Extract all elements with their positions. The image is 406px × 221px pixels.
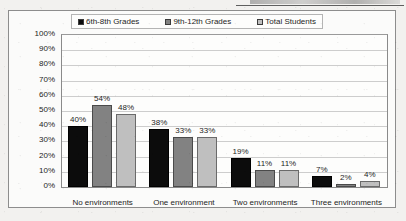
x-category-label: One environment [143,199,224,207]
bar-value-label: 7% [309,166,335,174]
bar-value-label: 38% [146,119,172,127]
y-tick-label: 60% [39,91,55,99]
bar-1-2 [197,137,217,187]
bar-3-1 [336,184,356,187]
x-category-label: Two environments [225,199,306,207]
legend-swatch-icon [257,19,263,25]
y-tick-label: 40% [39,121,55,129]
y-axis: 100%90%80%70%60%50%40%30%20%10%0% [17,27,59,195]
bar-value-label: 33% [170,127,196,135]
chart-legend: 6th-8th Grades9th-12th GradesTotal Stude… [71,14,323,29]
bar-3-2 [360,181,380,187]
bar-2-2 [279,170,299,187]
page-header-artifact [250,0,400,4]
y-tick-label: 90% [39,45,55,53]
x-axis: No environmentsOne environmentTwo enviro… [62,197,387,213]
legend-item-2: Total Students [257,18,316,26]
x-category-label: Three environments [306,199,387,207]
bar-0-0 [68,126,88,187]
bar-group: 38%33%33% [149,35,224,187]
y-tick-label: 0% [43,182,55,190]
y-tick-label: 20% [39,152,55,160]
bar-0-2 [116,114,136,187]
legend-swatch-icon [165,19,171,25]
bar-2-0 [231,158,251,187]
bar-value-label: 19% [228,148,254,156]
x-category-label: No environments [62,199,143,207]
bar-2-1 [255,170,275,187]
legend-item-1: 9th-12th Grades [165,18,231,26]
bar-value-label: 48% [113,104,139,112]
legend-label: 9th-12th Grades [173,18,231,26]
bar-value-label: 11% [252,160,278,168]
bar-group: 40%54%48% [68,35,143,187]
bar-group: 19%11%11% [231,35,306,187]
bar-0-1 [92,105,112,187]
bar-value-label: 2% [333,174,359,182]
bar-3-0 [312,176,332,187]
bar-value-label: 54% [89,95,115,103]
legend-label: 6th-8th Grades [86,18,139,26]
bar-1-0 [149,129,169,187]
bar-value-label: 11% [276,160,302,168]
bars-layer: 40%54%48%38%33%33%19%11%11%7%2%4% [62,35,387,187]
y-tick-label: 70% [39,76,55,84]
chart-frame: 6th-8th Grades9th-12th GradesTotal Stude… [8,10,396,208]
y-tick-label: 50% [39,106,55,114]
y-tick-label: 80% [39,60,55,68]
y-tick-label: 100% [35,30,55,38]
header-rule [236,5,404,6]
legend-label: Total Students [265,18,316,26]
legend-item-0: 6th-8th Grades [78,18,139,26]
bar-value-label: 4% [357,171,383,179]
bar-value-label: 40% [65,116,91,124]
y-tick-label: 10% [39,167,55,175]
y-tick-label: 30% [39,136,55,144]
bar-group: 7%2%4% [312,35,387,187]
legend-swatch-icon [78,19,84,25]
bar-value-label: 33% [194,127,220,135]
bar-1-1 [173,137,193,187]
